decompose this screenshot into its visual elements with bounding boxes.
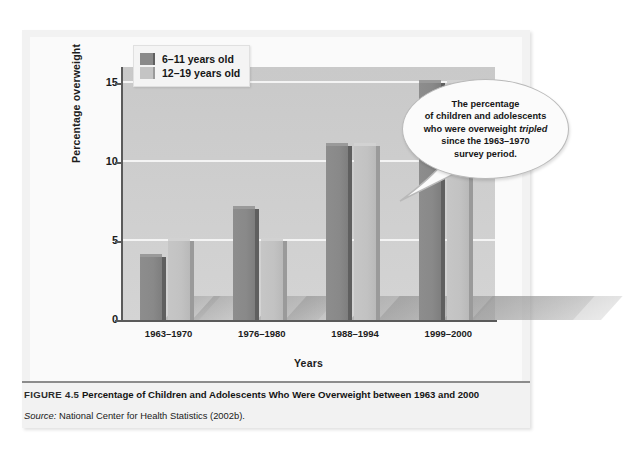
y-tick-label-5: 5	[78, 235, 118, 246]
bar-face	[326, 146, 348, 320]
callout-line-1: The percentage	[452, 99, 520, 109]
bar-1988–1994-12–19 years old[interactable]	[354, 146, 376, 320]
bar-side	[255, 209, 259, 320]
figure-number: FIGURE 4.5	[24, 389, 79, 400]
source-text: National Center for Health Statistics (2…	[59, 410, 245, 421]
bar-side	[190, 241, 194, 320]
bar-1976–1980-12–19 years old[interactable]	[261, 241, 283, 320]
y-tick-mark-10	[115, 162, 122, 164]
callout-line-5: survey period.	[454, 149, 517, 159]
legend-swatch-icon-12-19	[140, 67, 155, 79]
bar-top	[140, 254, 162, 257]
callout-line-2: of children and adolescents	[425, 111, 547, 121]
y-axis-line	[121, 67, 123, 322]
callout-annotation: The percentage of children and adolescen…	[402, 79, 567, 177]
callout-line-3-emphasis: tripled	[519, 124, 547, 134]
x-axis-line	[122, 320, 497, 322]
bar-1963–1970-12–19 years old[interactable]	[168, 241, 190, 320]
bar-1963–1970-6–11 years old[interactable]	[140, 257, 162, 320]
x-tick-label-1999–2000: 1999–2000	[402, 328, 495, 339]
y-tick-label-10: 10	[78, 156, 118, 167]
bar-side	[348, 146, 352, 320]
figure-panel-inner: 051015 1963–19701976–19801988–19941999–2…	[30, 37, 522, 382]
figure-caption: FIGURE 4.5 Percentage of Children and Ad…	[24, 388, 534, 401]
x-tick-label-1963–1970: 1963–1970	[122, 328, 215, 339]
callout-line-4: since the 1963–1970	[441, 136, 529, 146]
x-axis-title: Years	[122, 357, 495, 369]
bar-side	[162, 257, 166, 320]
source-label: Source:	[24, 410, 56, 421]
bar-side	[283, 241, 287, 320]
figure-source: Source: National Center for Health Stati…	[24, 409, 534, 422]
legend-label-12-19: 12–19 years old	[162, 67, 240, 79]
legend-label-6-11: 6–11 years old	[162, 53, 234, 65]
callout-text: The percentage of children and adolescen…	[414, 98, 558, 161]
x-tick-label-1976–1980: 1976–1980	[215, 328, 308, 339]
figure-panel: 051015 1963–19701976–19801988–19941999–2…	[22, 30, 530, 428]
bar-shadow	[471, 296, 623, 320]
bar-face	[354, 146, 376, 320]
caption-divider	[22, 381, 530, 383]
bar-top	[233, 206, 255, 209]
x-tick-label-1988–1994: 1988–1994	[309, 328, 402, 339]
bar-1976–1980-6–11 years old[interactable]	[233, 209, 255, 320]
y-tick-label-0: 0	[78, 314, 118, 325]
y-axis-title: Percentage overweight	[70, 44, 82, 163]
callout-bubble: The percentage of children and adolescen…	[402, 79, 569, 179]
y-tick-mark-5	[115, 241, 122, 243]
bar-face	[168, 241, 190, 320]
callout-line-3-prefix: who were overweight	[424, 124, 519, 134]
bar-face	[140, 257, 162, 320]
chart-legend: 6–11 years old 12–19 years old	[133, 45, 250, 87]
bar-top	[168, 238, 190, 241]
bar-top	[326, 143, 348, 146]
legend-swatch-icon-6-11	[140, 53, 155, 65]
legend-item-12-19: 12–19 years old	[140, 67, 240, 79]
bar-top	[354, 143, 376, 146]
bar-side	[376, 146, 380, 320]
figure-caption-text: Percentage of Children and Adolescents W…	[82, 389, 479, 400]
bar-face	[233, 209, 255, 320]
legend-item-6-11: 6–11 years old	[140, 53, 240, 65]
bar-face	[261, 241, 283, 320]
y-tick-mark-15	[115, 83, 122, 85]
y-tick-mark-0	[115, 320, 122, 322]
bar-top	[261, 238, 283, 241]
y-tick-label-15: 15	[78, 77, 118, 88]
bar-1988–1994-6–11 years old[interactable]	[326, 146, 348, 320]
